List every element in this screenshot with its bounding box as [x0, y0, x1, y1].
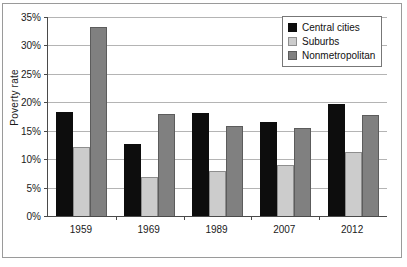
- x-axis-tick: [251, 216, 252, 220]
- y-axis-title: Poverty rate: [9, 58, 20, 138]
- x-axis-tick-label: 2012: [341, 224, 363, 235]
- y-axis-tick-label: 25%: [21, 68, 41, 79]
- bar: [277, 165, 294, 216]
- bar-group: [184, 17, 252, 216]
- legend-item: Central cities: [288, 20, 375, 34]
- bar: [294, 128, 311, 216]
- y-axis-tick-label: 15%: [21, 125, 41, 136]
- y-axis-tick-label: 10%: [21, 154, 41, 165]
- legend-label: Nonmetropolitan: [302, 50, 375, 61]
- legend-label: Central cities: [302, 22, 360, 33]
- y-axis-tick-label: 0%: [27, 211, 41, 222]
- x-axis-tick: [319, 216, 320, 220]
- x-axis-tick-label: 1959: [70, 224, 92, 235]
- legend-label: Suburbs: [302, 36, 339, 47]
- bar: [362, 115, 379, 216]
- bar: [260, 122, 277, 216]
- bar: [226, 126, 243, 216]
- bar: [73, 147, 90, 216]
- bar: [158, 114, 175, 216]
- bar-group: [48, 17, 116, 216]
- legend-swatch-central-cities: [288, 23, 297, 32]
- bar-group: [116, 17, 184, 216]
- bar: [90, 27, 107, 216]
- legend-item: Nonmetropolitan: [288, 48, 375, 62]
- y-axis-tick: [44, 216, 48, 217]
- poverty-rate-bar-chart: Poverty rate 0%5%10%15%20%25%30%35% 1959…: [0, 0, 407, 267]
- bar: [345, 152, 362, 216]
- y-axis-tick-label: 20%: [21, 97, 41, 108]
- x-axis-tick: [184, 216, 185, 220]
- legend-swatch-nonmetropolitan: [288, 51, 297, 60]
- bar: [328, 104, 345, 216]
- x-axis-tick: [116, 216, 117, 220]
- bar: [56, 112, 73, 216]
- y-axis-tick-label: 30%: [21, 40, 41, 51]
- x-axis-tick-label: 2007: [273, 224, 295, 235]
- x-axis-tick-label: 1969: [138, 224, 160, 235]
- x-axis-tick-label: 1989: [205, 224, 227, 235]
- legend-item: Suburbs: [288, 34, 375, 48]
- bar: [141, 177, 158, 216]
- y-axis-tick-label: 35%: [21, 12, 41, 23]
- y-axis-tick-label: 5%: [27, 182, 41, 193]
- bar: [124, 144, 141, 216]
- bar: [209, 171, 226, 216]
- legend-swatch-suburbs: [288, 37, 297, 46]
- legend: Central cities Suburbs Nonmetropolitan: [282, 16, 382, 67]
- bar: [192, 113, 209, 216]
